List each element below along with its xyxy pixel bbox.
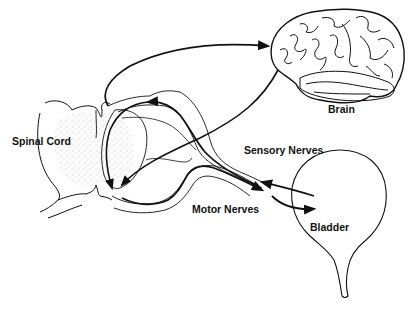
spinal-cord	[38, 101, 147, 218]
label-bladder: Bladder	[310, 221, 349, 233]
sensory-nerve-path	[262, 182, 314, 196]
label-spinal-cord: Spinal Cord	[12, 135, 71, 147]
label-brain: Brain	[328, 103, 355, 115]
label-motor-nerves: Motor Nerves	[192, 203, 259, 215]
bladder-control-diagram: Spinal Cord Brain Sensory Nerves Motor N…	[0, 0, 414, 314]
brain	[271, 9, 404, 102]
sensory-nerve-ascending	[148, 102, 258, 186]
motor-nerve-path	[122, 166, 262, 204]
label-sensory-nerves: Sensory Nerves	[244, 144, 324, 156]
